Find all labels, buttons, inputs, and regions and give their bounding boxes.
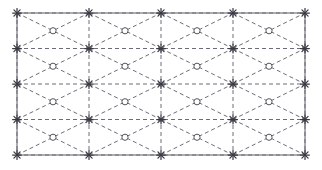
cell-center-node-marker [50, 99, 56, 105]
mesh-diagram-canvas [0, 0, 322, 170]
cell-center-node-marker [50, 134, 56, 140]
cell-center-node-marker [50, 63, 56, 69]
cell-center-node-marker [266, 134, 272, 140]
cell-center-node-marker [266, 28, 272, 34]
cell-center-node-marker [122, 28, 128, 34]
cell-center-node-marker [122, 63, 128, 69]
cell-center-node-marker [266, 99, 272, 105]
cell-center-node-marker [194, 63, 200, 69]
cell-center-node-marker [194, 134, 200, 140]
mesh-figure [0, 0, 322, 170]
cell-center-node-marker [194, 99, 200, 105]
cell-center-node-marker [122, 99, 128, 105]
cell-center-node-marker [50, 28, 56, 34]
cell-center-node-marker [122, 134, 128, 140]
cell-center-node-marker [194, 28, 200, 34]
cell-center-node-marker [266, 63, 272, 69]
